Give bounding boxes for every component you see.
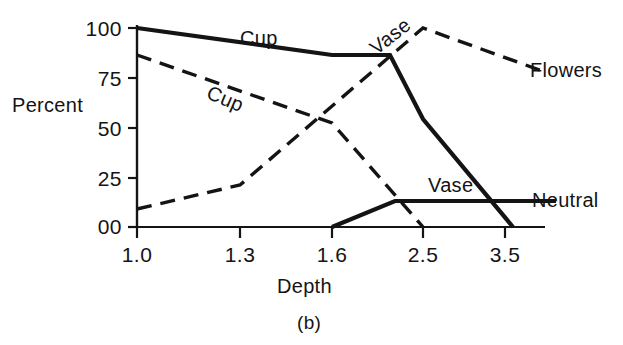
y-tick-label-100: 100 bbox=[74, 18, 122, 39]
series-label-neutral: Neutral bbox=[532, 190, 599, 210]
series-line-cup-dashed bbox=[137, 55, 423, 227]
figure-panel: 100 75 50 25 00 Percent 1.0 1.3 1.6 2.5 … bbox=[0, 0, 623, 345]
series-label-vase-solid: Vase bbox=[428, 175, 473, 195]
series-line-vase-neutral-solid bbox=[332, 201, 556, 227]
series-label-cup-solid: Cup bbox=[240, 28, 278, 48]
x-axis-title: Depth bbox=[277, 276, 332, 296]
y-tick-label-25: 25 bbox=[74, 168, 122, 189]
y-tick-label-50: 50 bbox=[74, 118, 122, 139]
y-axis-title: Percent bbox=[12, 95, 83, 115]
x-tick-label-3-5: 3.5 bbox=[480, 244, 530, 265]
x-tick-label-1-0: 1.0 bbox=[112, 244, 162, 265]
x-axis-ticks bbox=[137, 227, 505, 238]
x-tick-label-2-5: 2.5 bbox=[398, 244, 448, 265]
x-tick-label-1-3: 1.3 bbox=[215, 244, 265, 265]
series-label-flowers: Flowers bbox=[530, 60, 602, 80]
figure-caption: (b) bbox=[297, 313, 321, 332]
y-tick-label-75: 75 bbox=[74, 68, 122, 89]
y-tick-label-00: 00 bbox=[74, 216, 122, 237]
y-axis-ticks bbox=[128, 28, 137, 227]
x-tick-label-1-6: 1.6 bbox=[307, 244, 357, 265]
